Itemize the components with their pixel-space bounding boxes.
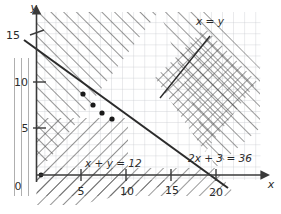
x-tick-label-20: 20 [209,186,223,199]
point-dot [109,116,114,121]
y-axis-label: y [29,1,37,14]
x-axis-label: x [267,178,275,191]
x-tick-label-10: 10 [120,185,134,198]
label-x-equals-y: x = y [195,15,225,27]
label-x-plus-y-equals-12: x + y = 12 [84,157,142,169]
x-tick-label-5: 5 [78,185,85,198]
x-tick-label-15: 15 [165,184,179,197]
coordinate-plane-svg: 15 10 5 0 5 10 15 20 y x x = y x + y = 1… [0,0,281,214]
origin-label: 0 [15,180,22,193]
y-tick-label-5: 5 [22,122,29,135]
label-2x-plus-3-equals-36: 2x + 3 = 36 [188,152,252,164]
point-dot [80,91,85,96]
graph-figure: 15 10 5 0 5 10 15 20 y x x = y x + y = 1… [0,0,281,214]
y-tick-label-10: 10 [14,76,28,89]
point-dot [90,102,95,107]
y-tick-label-15: 15 [6,29,20,42]
point-dot [99,110,104,115]
